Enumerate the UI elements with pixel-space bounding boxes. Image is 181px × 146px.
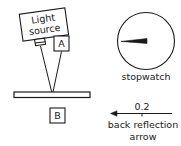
back-reflection-arrowhead	[111, 111, 118, 116]
detector-a-label: A	[58, 38, 65, 49]
physics-apparatus-figure: Light source A B stopwatch	[0, 0, 181, 146]
back-reflection-caption-line2: arrow	[130, 131, 157, 142]
detector-b-label: B	[54, 110, 61, 121]
light-source-assembly: Light source A B	[14, 8, 90, 123]
back-reflection-assembly: 0.2 back reflection arrow	[108, 101, 178, 142]
figure-canvas: Light source A B stopwatch	[0, 0, 181, 146]
back-reflection-caption-line1: back reflection	[108, 119, 178, 130]
reflected-beam-line	[53, 52, 62, 95]
stopwatch-assembly: stopwatch	[118, 13, 175, 83]
sample-bar	[14, 92, 90, 98]
incident-beam-line	[41, 46, 53, 94]
stopwatch-label: stopwatch	[121, 71, 170, 82]
back-reflection-value-label: 0.2	[134, 101, 149, 112]
